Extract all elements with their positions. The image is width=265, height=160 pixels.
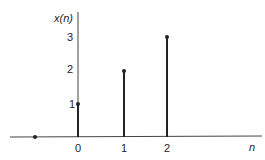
- y-tick-1: 1: [69, 98, 75, 110]
- x-tick-1: 1: [121, 142, 127, 154]
- x-axis: [10, 136, 262, 137]
- stem-plot: x(n) 3 2 1 0 1 2 n: [0, 0, 265, 160]
- y-axis-label: x(n): [53, 12, 73, 24]
- y-tick-3: 3: [67, 31, 73, 43]
- stem-n-minus1: [33, 135, 37, 139]
- x-axis-label: n: [249, 141, 255, 153]
- x-tick-0: 0: [75, 142, 81, 154]
- stem-n0: [76, 102, 80, 137]
- stem-n2: [165, 35, 169, 137]
- x-tick-2: 2: [164, 142, 170, 154]
- stem-n1: [122, 69, 126, 137]
- y-tick-2: 2: [67, 63, 73, 75]
